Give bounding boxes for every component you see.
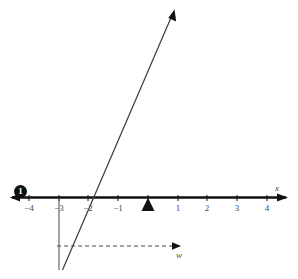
origin-triangle-marker: [142, 198, 155, 211]
x-axis-label: x: [275, 183, 279, 193]
ray-shaft: [63, 13, 174, 270]
ray-line: [63, 10, 177, 271]
ray-arrowhead: [168, 10, 176, 22]
w-axis-label: w: [176, 250, 182, 260]
x-axis-right-arrowhead: [277, 193, 288, 201]
number-line-figure: 1 −4 −3 −2 −1 1 2 3 4 x w: [0, 0, 298, 279]
tick-label--2: −2: [76, 203, 100, 213]
w-axis-arrowhead: [172, 242, 181, 250]
tick-label-4: 4: [255, 203, 279, 213]
w-axis-line: [57, 242, 181, 250]
tick-label--4: −4: [17, 203, 41, 213]
figure-canvas: [0, 0, 298, 279]
tick-label-3: 3: [225, 203, 249, 213]
tick-label--3: −3: [47, 203, 71, 213]
tick-label-1: 1: [166, 203, 190, 213]
tick-label-2: 2: [195, 203, 219, 213]
step-badge-1: 1: [14, 185, 27, 198]
tick-label--1: −1: [106, 203, 130, 213]
